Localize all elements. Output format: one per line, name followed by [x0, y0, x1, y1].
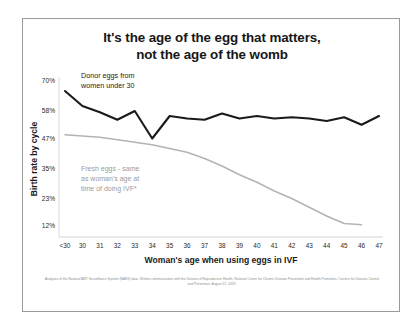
- x-axis-tick-label: 31: [96, 242, 104, 249]
- x-axis-tick-label: 34: [149, 242, 157, 249]
- x-axis-tick-label: 45: [341, 242, 349, 249]
- donor-eggs-line: [65, 91, 379, 139]
- y-axis-tick-label: 58%: [42, 107, 55, 114]
- x-axis-tick-label: 38: [218, 242, 226, 249]
- x-axis-tick-label: 33: [131, 242, 139, 249]
- x-axis-tick-label: 47: [375, 242, 383, 249]
- x-axis-tick-label: 36: [184, 242, 192, 249]
- y-axis-tick-labels: 70%58%47%35%23%12%: [42, 77, 55, 229]
- donor-series-annotation-line-1: Donor eggs from: [81, 71, 135, 80]
- x-axis-tick-label: 32: [114, 242, 122, 249]
- line-chart-plot: 70%58%47%35%23%12% <30303132333435363738…: [23, 19, 401, 313]
- x-axis-tick-label: 35: [166, 242, 174, 249]
- chart-card: It's the age of the egg that matters, no…: [22, 18, 400, 312]
- x-axis-tick-label: 44: [323, 242, 331, 249]
- x-axis-title: Woman's age when using eggs in IVF: [145, 255, 298, 265]
- x-axis-tick-label: 37: [201, 242, 209, 249]
- fresh-series-annotation-line-2: as woman's age at: [81, 175, 139, 183]
- donor-series-annotation-line-2: women under 30: [80, 81, 135, 90]
- fresh-series-annotation-line-1: Fresh eggs - same: [81, 165, 139, 173]
- y-axis-tick-label: 12%: [42, 222, 55, 229]
- x-axis-tick-labels: <30303132333435363738394041424344454647: [60, 242, 383, 249]
- x-axis-tick-label: 39: [236, 242, 244, 249]
- fresh-series-annotation-line-3: time of doing IVF*: [81, 185, 137, 193]
- x-axis-tick-label: 41: [271, 242, 279, 249]
- x-axis-tick-label: 46: [358, 242, 366, 249]
- x-axis-tick-label: 42: [288, 242, 296, 249]
- y-axis-tick-label: 35%: [42, 165, 55, 172]
- x-axis-tick-label: 40: [253, 242, 261, 249]
- y-axis-title: Birth rate by cycle: [29, 122, 39, 197]
- y-axis-tick-label: 23%: [42, 195, 55, 202]
- data-series-group: [65, 91, 379, 225]
- x-axis-tick-label: 43: [306, 242, 314, 249]
- x-axis-tick-label: <30: [60, 242, 71, 249]
- y-axis-tick-label: 47%: [42, 135, 55, 142]
- y-axis-tick-label: 70%: [42, 77, 55, 84]
- x-axis-tick-label: 30: [79, 242, 87, 249]
- source-footnote: Analyses of the National ART Surveillanc…: [43, 277, 381, 286]
